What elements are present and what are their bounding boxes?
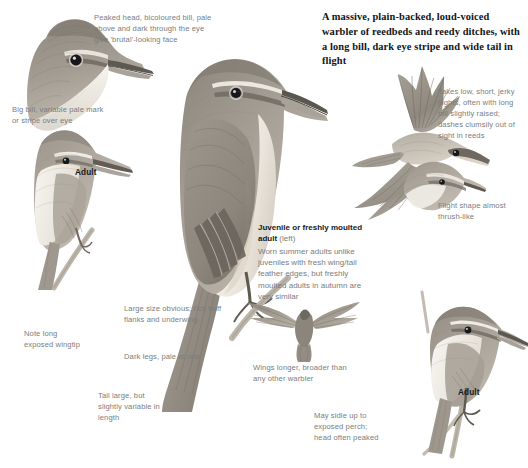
annotation-tail-large: Tail large, but slightly variable in len… [98, 390, 166, 423]
annotation-takes-low: Takes low, short, jerky flights, often w… [438, 86, 520, 141]
annotation-large-size: Large size obvious; rich buff flanks and… [124, 303, 228, 325]
annotation-note-wingtip: Note long exposed wingtip [24, 328, 82, 350]
flying-warbler-underside-illustration [248, 300, 360, 362]
juvenile-side-note: (left) [279, 234, 295, 243]
adult-label-left: Adult [75, 168, 97, 177]
juvenile-body: Worn summer adults unlike juveniles with… [258, 246, 376, 303]
annotation-flight-shape: Flight shape almost thrush-like [438, 200, 523, 222]
juvenile-note-block: Juvenile or freshly moulted adult (left)… [258, 222, 376, 303]
annotation-wings-longer: Wings longer, broader than any other war… [253, 362, 357, 384]
annotation-dark-legs: Dark legs, pale at rear [124, 351, 244, 362]
perched-adult-on-reed-illustration [418, 288, 528, 463]
perched-adult-bird-illustration [22, 112, 142, 292]
annotation-may-sidle: May sidle up to exposed perch; head ofte… [314, 410, 380, 443]
juvenile-title: Juvenile or freshly moulted adult [258, 223, 362, 243]
adult-label-right: Adult [458, 388, 480, 397]
